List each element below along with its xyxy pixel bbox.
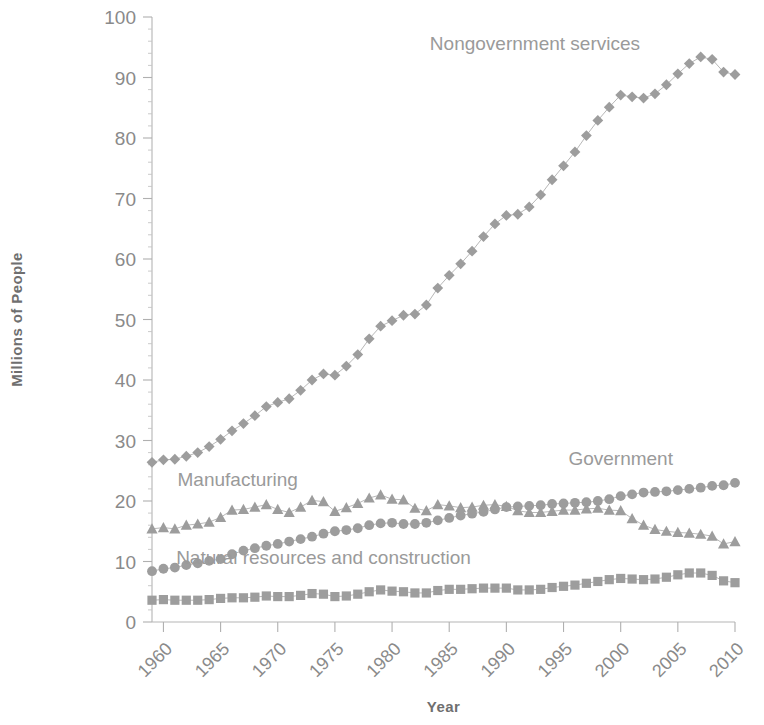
data-point-diamond [284,393,295,404]
data-point-diamond [215,434,226,445]
y-tick-label: 60 [115,249,136,270]
y-tick-label: 70 [115,189,136,210]
data-point-circle [410,519,420,529]
y-tick-label: 80 [115,128,136,149]
data-point-square [365,587,374,596]
series-natural-resources-and-construction [147,568,739,604]
data-point-circle [684,484,694,494]
data-point-diamond [318,369,329,380]
data-point-diamond [410,309,421,320]
data-point-square [525,585,534,594]
data-point-square [159,595,168,604]
data-point-circle [707,481,717,491]
data-point-diamond [192,447,203,458]
data-point-square [628,574,637,583]
data-point-square [582,579,591,588]
series-annotation-label: Natural resources and construction [176,547,471,568]
data-point-diamond [330,370,341,381]
chart-canvas: 0102030405060708090100196019651970197519… [0,0,764,725]
data-point-square [205,595,214,604]
x-tick-label: 1960 [134,639,176,681]
data-point-square [307,589,316,598]
data-point-square [605,575,614,584]
y-tick-label: 0 [125,612,136,633]
data-point-triangle [158,522,169,532]
series-annotation-label: Manufacturing [178,469,298,490]
data-point-triangle [306,495,317,505]
x-tick-label: 2000 [591,639,633,681]
x-axis-title: Year [427,698,460,715]
data-point-circle [662,486,672,496]
data-point-circle [387,518,397,528]
data-point-triangle [729,536,740,546]
data-point-square [559,582,568,591]
data-point-circle [547,499,557,509]
data-point-circle [341,525,351,535]
data-point-square [616,574,625,583]
data-point-circle [616,491,626,501]
y-axis-title: Millions of People [8,252,25,387]
data-point-circle [159,564,169,574]
data-point-diamond [512,209,523,220]
series-annotation-label: Nongovernment services [430,33,640,54]
data-point-square [147,596,156,605]
data-point-square [593,577,602,586]
data-point-diamond [627,91,638,102]
data-point-diamond [272,397,283,408]
data-point-diamond [169,454,180,465]
series-line [152,57,735,462]
data-point-circle [296,534,306,544]
data-point-diamond [501,210,512,221]
x-tick-label: 1970 [248,639,290,681]
data-point-square [410,588,419,597]
data-point-square [639,575,648,584]
x-tick-label: 1980 [362,639,404,681]
data-point-circle [604,494,614,504]
x-tick-label: 1965 [191,639,233,681]
data-point-square [330,592,339,601]
data-point-square [490,584,499,593]
data-point-triangle [432,499,443,509]
data-point-triangle [386,494,397,504]
data-point-circle [581,497,591,507]
data-point-circle [399,519,409,529]
data-point-triangle [272,504,283,514]
data-point-circle [501,502,511,512]
data-point-square [730,578,739,587]
data-point-circle [456,511,466,521]
data-point-square [662,573,671,582]
x-tick-label: 1985 [419,639,461,681]
data-point-square [570,580,579,589]
data-point-square [708,571,717,580]
data-point-square [387,587,396,596]
data-point-triangle [215,512,226,522]
data-point-square [456,585,465,594]
data-point-circle [353,523,363,533]
data-point-square [319,590,328,599]
data-point-circle [627,489,637,499]
data-point-square [285,592,294,601]
data-point-diamond [261,401,272,412]
y-tick-label: 40 [115,370,136,391]
data-point-diamond [570,147,581,158]
data-point-square [342,591,351,600]
data-point-diamond [387,315,398,326]
data-point-triangle [284,507,295,517]
data-point-circle [479,507,489,517]
data-point-square [250,593,259,602]
data-point-circle [364,520,374,530]
x-tick-label: 1995 [534,639,576,681]
data-point-diamond [650,88,661,99]
data-point-triangle [352,498,363,508]
x-tick-label: 2010 [705,639,747,681]
data-point-diamond [558,160,569,171]
data-point-triangle [627,513,638,523]
x-tick-label: 1975 [305,639,347,681]
data-point-triangle [341,502,352,512]
data-point-circle [639,488,649,498]
data-point-square [479,584,488,593]
data-point-triangle [295,501,306,511]
data-point-square [262,591,271,600]
data-point-square [513,585,522,594]
data-point-diamond [398,310,409,321]
